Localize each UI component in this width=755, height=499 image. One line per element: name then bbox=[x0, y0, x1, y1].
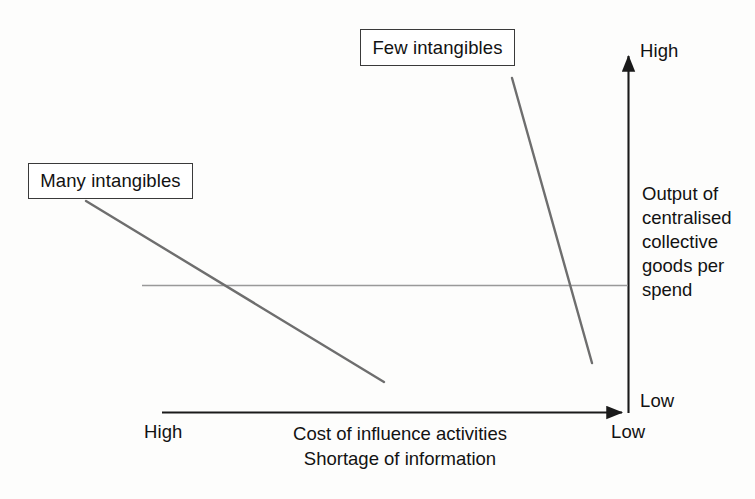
y-axis-title-line-5: spend bbox=[642, 278, 754, 302]
y-axis-title-line-1: Output of bbox=[642, 182, 754, 206]
x-axis-high-label: High bbox=[144, 421, 182, 443]
series-line-few-intangibles bbox=[512, 78, 592, 363]
y-axis-low-label: Low bbox=[640, 390, 674, 412]
x-axis-title: Cost of influence activities Shortage of… bbox=[205, 421, 595, 471]
x-axis-low-label: Low bbox=[611, 421, 645, 443]
y-axis-title-line-3: collective bbox=[642, 230, 754, 254]
y-axis-title-line-2: centralised bbox=[642, 206, 754, 230]
diagram-canvas: Many intangibles Few intangibles High Lo… bbox=[0, 0, 755, 499]
x-axis-title-line-2: Shortage of information bbox=[205, 446, 595, 471]
y-axis-high-label: High bbox=[640, 40, 678, 62]
y-axis-title: Output of centralised collective goods p… bbox=[642, 182, 754, 302]
series-line-many-intangibles bbox=[86, 201, 384, 382]
callout-many-intangibles: Many intangibles bbox=[28, 163, 193, 199]
x-axis-title-line-1: Cost of influence activities bbox=[205, 421, 595, 446]
callout-few-intangibles: Few intangibles bbox=[360, 29, 515, 66]
y-axis-title-line-4: goods per bbox=[642, 254, 754, 278]
